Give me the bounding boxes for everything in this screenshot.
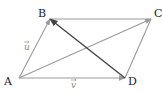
point-label-c: C xyxy=(154,7,162,20)
parallelogram-diagram: ABCDuv xyxy=(0,0,163,93)
point-label-b: B xyxy=(38,7,46,20)
vector-DB xyxy=(50,19,125,78)
vector-label-u: u xyxy=(24,42,30,52)
point-label-d: D xyxy=(128,75,137,88)
vector-AC xyxy=(19,19,151,78)
point-label-a: A xyxy=(3,75,13,88)
vector-label-v: v xyxy=(71,80,76,90)
segment-DC xyxy=(125,19,151,78)
